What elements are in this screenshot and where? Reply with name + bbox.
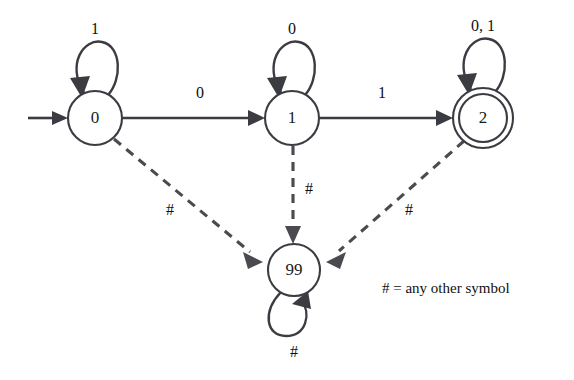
transition-label-q2-q99: #	[405, 201, 413, 218]
self-loop-q1: 0	[267, 20, 315, 98]
state-node-q0[interactable]: 0	[68, 91, 122, 145]
start-arrow	[28, 111, 68, 125]
self-loop-label-q1: 0	[288, 20, 296, 37]
transition-label-q0-q1: 0	[196, 84, 204, 101]
transition-label-q1-q99: #	[305, 180, 313, 197]
state-label-q0: 0	[91, 108, 100, 127]
self-loop-q2: 0, 1	[457, 17, 505, 95]
state-label-q99: 99	[286, 260, 303, 279]
transition-q2-q99: #	[326, 141, 464, 269]
fsm-canvas: 0 1 # # # 1	[0, 0, 574, 380]
legend-text: # = any other symbol	[382, 280, 510, 296]
transition-label-q0-q99: #	[166, 201, 174, 218]
state-machine-diagram: 0 1 # # # 1	[0, 0, 574, 380]
state-node-q2[interactable]: 2	[453, 88, 513, 148]
self-loop-q0: 1	[70, 20, 118, 98]
transition-q1-q2: 1	[319, 84, 453, 126]
transition-q0-q99: #	[114, 139, 263, 269]
self-loop-label-q0: 1	[91, 20, 99, 37]
state-node-q1[interactable]: 1	[265, 91, 319, 145]
state-node-q99[interactable]: 99	[268, 244, 320, 296]
state-label-q2: 2	[479, 108, 488, 127]
transition-q0-q1: 0	[122, 84, 265, 126]
self-loop-label-q99: #	[290, 343, 298, 360]
self-loop-label-q2: 0, 1	[471, 17, 495, 34]
state-label-q1: 1	[288, 108, 297, 127]
transition-label-q1-q2: 1	[378, 84, 386, 101]
transition-q1-q99: #	[285, 146, 313, 244]
self-loop-q99: #	[269, 291, 311, 360]
